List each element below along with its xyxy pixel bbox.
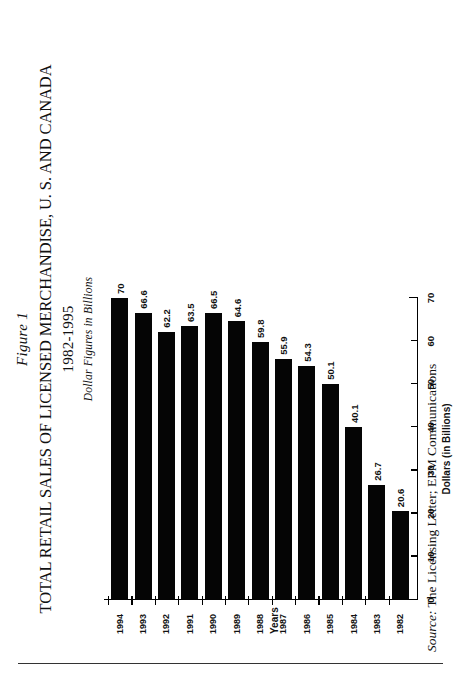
bar-value-label: 50.1 [325,361,336,380]
category-tick [248,596,249,605]
bar-chart-plot-area: 20.6198226.7198340.1198450.1198554.31986… [108,298,412,600]
figure-year-range: 1982-1995 [60,0,77,678]
category-tick [131,596,132,605]
value-tick [411,340,418,341]
bar-value-label: 64.6 [231,299,242,318]
bar-row: 62.2 [158,298,175,600]
bar [111,298,128,600]
bar-row: 66.6 [135,298,152,600]
bar-row: 40.1 [345,298,362,600]
category-tick [295,596,296,605]
category-label: 1991 [185,614,195,634]
bar [135,313,152,600]
bar-row: 20.6 [392,298,409,600]
category-tick [178,596,179,605]
category-tick [342,596,343,605]
category-tick [225,596,226,605]
category-label: 1992 [161,614,171,634]
bar [275,359,292,600]
category-label: 1986 [302,614,312,634]
category-label: 1983 [372,614,382,634]
value-tick [411,383,418,384]
bar-row: 70 [111,298,128,600]
value-tick [411,426,418,427]
value-tick [411,512,418,513]
bar [322,384,339,600]
figure-title: TOTAL RETAIL SALES OF LICENSED MERCHANDI… [36,0,56,678]
bar [298,366,315,600]
figure-units-note: Dollar Figures in Billions [82,0,94,678]
category-label: 1990 [208,614,218,634]
source-text: The Licensing Letter; EPM Communications [424,364,439,611]
bar-value-label: 70 [114,283,125,294]
bar-value-label: 55.9 [278,336,289,355]
bar-row: 50.1 [322,298,339,600]
bar [181,326,198,600]
bar-row: 55.9 [275,298,292,600]
category-tick [108,596,109,605]
category-tick [272,596,273,605]
value-tick [409,599,418,600]
bar-value-label: 63.5 [184,304,195,323]
value-tick [411,469,418,470]
bar [252,342,269,600]
category-tick [318,596,319,605]
value-tick [409,297,418,298]
value-tick [411,555,418,556]
bar [158,332,175,600]
bar-row: 59.8 [252,298,269,600]
bar [345,427,362,600]
bar-value-label: 26.7 [371,462,382,481]
source-label: Source: [424,611,439,652]
bar-row: 26.7 [368,298,385,600]
figure-canvas: Figure 1 TOTAL RETAIL SALES OF LICENSED … [0,0,458,678]
bar [205,313,222,600]
category-label: 1988 [255,614,265,634]
category-label: 1989 [232,614,242,634]
category-tick [365,596,366,605]
category-tick [389,596,390,605]
bar-row: 66.5 [205,298,222,600]
bar [368,485,385,600]
bar-row: 64.6 [228,298,245,600]
bar-value-label: 40.1 [348,405,359,424]
category-tick [155,596,156,605]
bar [392,511,409,600]
category-label: 1994 [115,614,125,634]
value-axis-title: Dollars (in Billions) [441,298,452,600]
bar-value-label: 62.2 [161,309,172,328]
bar-value-label: 20.6 [395,489,406,508]
value-tick-label: 70 [425,293,436,304]
category-axis-title: Years [269,607,280,634]
bar-row: 63.5 [181,298,198,600]
bar [228,321,245,600]
bar-value-label: 54.3 [301,343,312,362]
bar-value-label: 66.5 [208,291,219,310]
category-tick [202,596,203,605]
category-label: 1985 [325,614,335,634]
page-rule-divider [18,663,443,664]
value-tick-label: 60 [425,336,436,347]
category-label: 1984 [349,614,359,634]
figure-number: Figure 1 [14,0,31,678]
source-note: Source: The Licensing Letter; EPM Commun… [424,364,440,652]
category-label: 1982 [395,614,405,634]
bar-value-label: 59.8 [255,320,266,339]
category-label: 1993 [138,614,148,634]
bar-value-label: 66.6 [138,290,149,309]
bar-row: 54.3 [298,298,315,600]
